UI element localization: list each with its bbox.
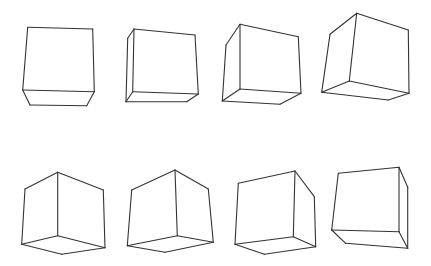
cube-edge [338, 167, 399, 173]
cube-edge [208, 189, 213, 242]
cube-edge [349, 81, 409, 93]
cube-edge [322, 81, 350, 92]
cube-edge [349, 13, 356, 81]
cube-edge [235, 183, 238, 244]
cube-edge [226, 24, 240, 45]
cube-edge [132, 170, 175, 190]
cube-edge [23, 27, 28, 90]
cube-rotation-figure [0, 0, 431, 266]
cube-edge [264, 247, 315, 255]
cube-edge [127, 190, 131, 246]
cube-edge [28, 27, 93, 29]
cube-7 [235, 171, 316, 254]
cube-edge [322, 92, 389, 100]
cube-edge [346, 243, 408, 248]
cube-edge [187, 94, 199, 102]
cube-edge [332, 230, 399, 232]
cube-edge [195, 35, 198, 94]
cube-edge [222, 45, 226, 101]
cube-edge [298, 37, 301, 94]
cube-edge [238, 171, 295, 183]
cube-edge [126, 92, 133, 102]
cube-edge [240, 24, 298, 36]
cube-edge [128, 29, 134, 38]
cube-edge [62, 248, 105, 255]
cube-4 [322, 13, 409, 100]
cube-edge [332, 173, 339, 230]
cube-edge [103, 190, 105, 248]
cube-edge [127, 246, 165, 253]
cube-edge [235, 237, 293, 245]
cube-edge [133, 29, 134, 92]
cube-edge [30, 105, 87, 106]
cube-edge [240, 89, 301, 93]
cube-edge [127, 236, 177, 246]
cube-6 [127, 170, 213, 252]
cube-edge [87, 92, 95, 106]
cube-edge [165, 242, 213, 252]
cube-edge [22, 244, 62, 254]
cube-edge [25, 172, 58, 189]
cube-edge [58, 236, 105, 248]
cube-edge [22, 236, 58, 245]
cube-edge [399, 167, 408, 187]
cube-edge [293, 171, 295, 237]
cube-edge [23, 90, 95, 92]
cube-edge [399, 232, 408, 249]
cube-edge [314, 197, 315, 247]
cube-1 [23, 27, 95, 105]
cube-edge [222, 101, 280, 104]
cube-drawing-area [0, 0, 431, 266]
cube-5 [22, 172, 105, 254]
cube-edge [332, 230, 346, 243]
cube-8 [332, 167, 408, 248]
cube-edge [93, 29, 95, 92]
cube-edge [322, 34, 330, 92]
cube-edge [408, 30, 409, 93]
cube-edge [134, 29, 195, 35]
cube-edge [22, 189, 25, 244]
cube-edge [280, 93, 301, 104]
cube-edge [222, 89, 240, 101]
cube-edge [388, 93, 409, 100]
cube-edge [295, 171, 314, 197]
cube-3 [222, 24, 301, 104]
cube-edge [330, 13, 357, 34]
cube-edge [175, 170, 177, 236]
cube-edge [293, 237, 315, 247]
cube-edge [235, 244, 264, 254]
cube-edge [126, 38, 128, 101]
cube-edge [58, 172, 104, 190]
cube-2 [126, 29, 198, 102]
cube-edge [177, 236, 213, 243]
cube-edge [357, 13, 409, 30]
cube-edge [23, 90, 30, 105]
cube-edge [133, 92, 199, 94]
cube-edge [175, 170, 208, 189]
